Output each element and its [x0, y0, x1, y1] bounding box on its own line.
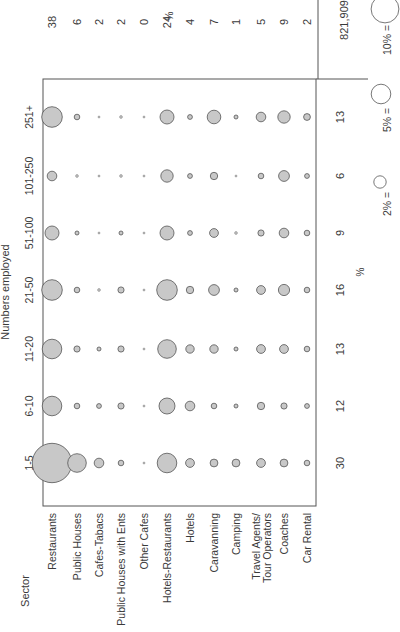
bubble [211, 403, 217, 409]
bubble [257, 345, 266, 354]
bubble [98, 232, 100, 234]
sector-share-value: 2 [93, 19, 105, 25]
bubble [74, 287, 80, 293]
bubble [188, 231, 193, 236]
size-band-share-value: 16 [334, 284, 346, 296]
bubble [120, 116, 123, 119]
bubble [161, 170, 173, 182]
bubble [143, 405, 145, 407]
size-band-share-value: 13 [334, 343, 346, 355]
bubble [74, 403, 80, 409]
bubble [232, 459, 240, 467]
bubble [143, 462, 145, 464]
sector-share-value: 2 [115, 19, 127, 25]
column-axis-label: Numbers employed [0, 244, 11, 339]
sector-share-value: 6 [71, 19, 83, 25]
bubble [32, 443, 71, 482]
sector-label: Hotels [184, 513, 196, 543]
size-band-share-value: 30 [334, 457, 346, 469]
sector-share-unit: % [164, 11, 175, 20]
size-band-label: 11-20 [23, 336, 35, 362]
plot-frame [43, 79, 316, 506]
bubble [157, 280, 178, 301]
bubble [258, 173, 264, 179]
sector-share-value: 4 [184, 19, 196, 25]
size-band-label: 21-50 [23, 276, 35, 303]
bubble [281, 403, 287, 409]
bubble [157, 453, 177, 473]
bubble [42, 107, 63, 128]
legend-circle [371, 84, 391, 104]
bubble [210, 229, 219, 238]
bubble [278, 111, 290, 123]
sector-label: Public Houses [71, 513, 83, 580]
bubble [143, 289, 145, 291]
bubble [234, 404, 238, 408]
sector-label: Public Houses with Ents [115, 513, 127, 626]
total-value: 821,909 [338, 0, 350, 40]
bubble [304, 230, 310, 236]
sector-label: Cafes-Tabacs [93, 513, 105, 577]
sector-share-value: 38 [46, 16, 58, 28]
size-band-share-value: 13 [334, 111, 346, 123]
bubble [74, 346, 80, 352]
bubble [279, 228, 289, 238]
bubble [143, 116, 145, 118]
sector-share-value: 2 [301, 19, 313, 25]
sector-label: Other Cafes [138, 513, 150, 570]
sector-label: Camping [230, 513, 242, 555]
legend-label: 10% = [381, 25, 393, 55]
bubble [119, 231, 123, 235]
bubble [257, 459, 266, 468]
band-share-unit: % [355, 267, 366, 276]
bubble [304, 346, 310, 352]
bubble [257, 286, 266, 295]
bubble [45, 226, 59, 240]
bubble [256, 112, 266, 122]
bubble [158, 340, 177, 359]
size-band-share-value: 9 [334, 230, 346, 236]
sector-label: Hotels-Restaurants [161, 513, 173, 603]
bubble [74, 114, 80, 120]
bubble [258, 230, 264, 236]
bubble [186, 286, 193, 293]
bubble [76, 175, 79, 178]
sector-label: Restaurants [46, 513, 58, 570]
bubble [98, 116, 100, 118]
size-band-share-value: 12 [334, 400, 346, 412]
sector-share-value: 9 [278, 19, 290, 25]
bubble [68, 454, 87, 473]
sector-label: Caravanning [208, 513, 220, 573]
bubble [118, 346, 124, 352]
sector-share-value: 7 [208, 19, 220, 25]
bubble [143, 232, 145, 234]
bubble [234, 115, 238, 119]
bubble [305, 174, 310, 179]
bubble [304, 460, 310, 466]
sector-share-value: 0 [138, 19, 150, 25]
legend-label: 5% = [381, 108, 393, 132]
bubble [118, 403, 124, 409]
bubble [279, 171, 290, 182]
bubble [210, 459, 218, 467]
size-band-label: 51-100 [23, 216, 35, 249]
bubble [186, 345, 194, 353]
bubble [185, 401, 195, 411]
bubble [42, 339, 62, 359]
legend-label: 2% = [381, 192, 393, 216]
bubble [42, 396, 62, 416]
bubble [160, 226, 174, 240]
size-band-label: 6-10 [23, 395, 35, 416]
legend-circle [371, 0, 399, 23]
row-axis-label: Sector [19, 575, 31, 607]
bubble [234, 347, 238, 351]
sector-label: Tour Operators [261, 513, 273, 583]
bubble [42, 280, 63, 301]
bubble [304, 287, 310, 293]
bubble [94, 458, 104, 468]
sector-label: Coaches [278, 513, 290, 554]
bubble [209, 285, 220, 296]
size-band-share-value: 6 [334, 173, 346, 179]
bubble [188, 115, 193, 120]
bubble [143, 348, 145, 350]
